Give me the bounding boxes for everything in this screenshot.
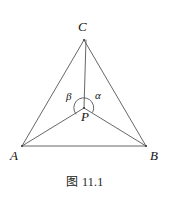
side-BC-line: [84, 40, 146, 146]
cevian-PB-line: [84, 108, 146, 146]
vertex-A-dot: [21, 145, 23, 147]
point-label-p: P: [81, 110, 89, 123]
figure-caption: 图 11.1: [0, 174, 170, 190]
angle-label-beta: β: [66, 91, 71, 102]
vertex-label-c: C: [78, 20, 87, 33]
vertex-C-dot: [83, 39, 85, 41]
vertex-B-dot: [145, 145, 147, 147]
vertex-label-b: B: [150, 149, 158, 162]
cevian-PA-line: [22, 108, 84, 146]
vertex-label-a: A: [10, 149, 18, 162]
side-CA-line: [22, 40, 84, 146]
angle-label-alpha: α: [95, 90, 101, 101]
geometry-figure: C A B P α β 图 11.1: [0, 0, 170, 199]
